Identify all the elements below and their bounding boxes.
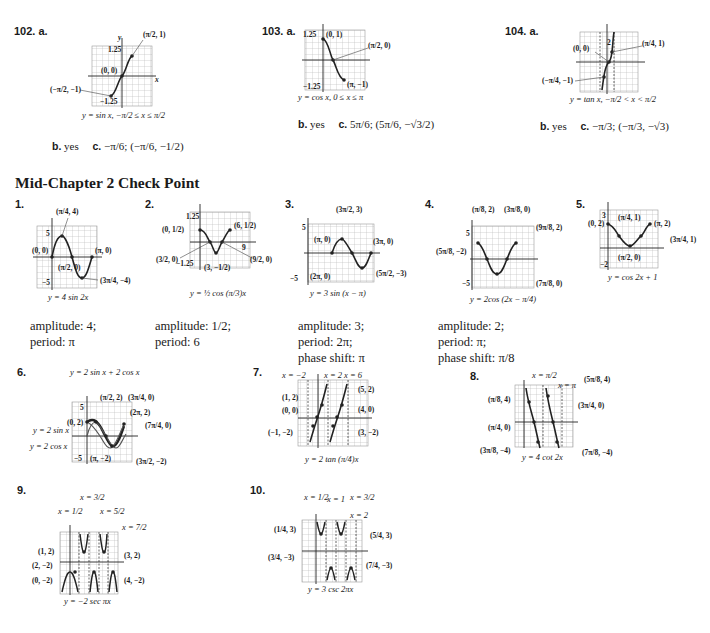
svg-text:(2π, 2): (2π, 2) (130, 408, 151, 417)
svg-text:(0, 2): (0, 2) (588, 219, 605, 228)
svg-text:(1, 2): (1, 2) (38, 547, 55, 556)
svg-text:(π/4, 4): (π/4, 4) (56, 207, 79, 216)
svg-text:(7π/8, −4): (7π/8, −4) (582, 448, 613, 457)
svg-text:(3π/4, 0): (3π/4, 0) (578, 401, 605, 410)
svg-text:(0, 1): (0, 1) (326, 30, 343, 39)
svg-text:2: 2 (607, 38, 611, 47)
svg-text:(0, 2): (0, 2) (67, 418, 84, 427)
svg-text:x = π/2: x = π/2 (531, 370, 557, 380)
svg-text:−5: −5 (74, 454, 82, 463)
svg-text:(π, 0): (π, 0) (314, 235, 331, 244)
svg-text:(π/2, 1): (π/2, 1) (143, 30, 166, 39)
svg-text:x = 1/2: x = 1/2 (57, 506, 83, 516)
svg-text:y = 2 tan (π/4)x: y = 2 tan (π/4)x (304, 454, 359, 464)
svg-text:(5π/8, 4): (5π/8, 4) (584, 375, 611, 384)
svg-text:(4, −2): (4, −2) (124, 576, 145, 585)
svg-text:−1.25: −1.25 (100, 97, 118, 106)
svg-text:(π/2, 0): (π/2, 0) (368, 41, 391, 50)
svg-text:(π, −1): (π, −1) (347, 80, 368, 89)
svg-text:(π, 2): (π, 2) (654, 219, 671, 228)
svg-text:(3π/2, 3): (3π/2, 3) (336, 205, 363, 214)
svg-text:x = 3/2: x = 3/2 (349, 492, 375, 502)
svg-text:(7/4, −3): (7/4, −3) (366, 561, 393, 570)
svg-text:x = 2: x = 2 (323, 370, 343, 380)
svg-text:(π/2, 0): (π/2, 0) (618, 253, 641, 262)
svg-text:y = 3 csc 2πx: y = 3 csc 2πx (307, 584, 354, 594)
svg-text:1.25: 1.25 (303, 30, 316, 39)
svg-text:(3, −2): (3, −2) (358, 428, 379, 437)
problem-102-bc: b. yes c. −π/6; (−π/6, −1/2) (52, 140, 184, 152)
svg-text:x = 5/2: x = 5/2 (99, 506, 125, 516)
svg-text:y = 2 sin x: y = 2 sin x (32, 425, 69, 435)
svg-text:(3/2, 0): (3/2, 0) (156, 255, 179, 264)
svg-text:(0, 0): (0, 0) (573, 44, 590, 53)
svg-text:(−1, −2): (−1, −2) (268, 428, 293, 437)
svg-text:x = −2: x = −2 (281, 370, 306, 380)
svg-text:(3π/4, 0): (3π/4, 0) (128, 393, 155, 402)
svg-text:(2, −2): (2, −2) (32, 561, 53, 570)
graph-cp-6: y = 2 sin x + 2 cos x y = 2 sin x y = 2 … (0, 340, 250, 480)
svg-text:y = ½ cos (π/3)x: y = ½ cos (π/3)x (189, 288, 246, 298)
svg-text:5: 5 (302, 223, 306, 232)
svg-text:(π/2, 0): (π/2, 0) (58, 263, 81, 272)
problem-104-bc: b. yes c. −π/3; (−π/3, −√3) (540, 120, 669, 132)
svg-text:y = tan x, −π/2 < x < π/2: y = tan x, −π/2 < x < π/2 (569, 94, 657, 104)
svg-text:y = −2 sec πx: y = −2 sec πx (63, 596, 111, 606)
svg-text:x = 6: x = 6 (343, 370, 363, 380)
svg-text:−1.25: −1.25 (303, 82, 321, 91)
svg-text:y = 3 sin (x − π): y = 3 sin (x − π) (309, 288, 366, 298)
svg-text:9: 9 (242, 243, 246, 252)
svg-text:−5: −5 (42, 278, 50, 287)
svg-text:(6, 1/2): (6, 1/2) (234, 221, 257, 230)
svg-text:(0, 0): (0, 0) (101, 66, 118, 75)
svg-text:(1, 2): (1, 2) (282, 393, 299, 402)
svg-text:−1.25: −1.25 (176, 259, 194, 268)
svg-text:(0, 1/2): (0, 1/2) (162, 225, 185, 234)
svg-text:5: 5 (46, 229, 50, 238)
svg-text:(5/4, 3): (5/4, 3) (370, 531, 393, 540)
graph-103: 1.25 −1.25 (0, 1) (π/2, 0) (π, −1) y = c… (240, 0, 480, 170)
svg-text:(π/4, 1): (π/4, 1) (618, 213, 641, 222)
svg-text:x = 1: x = 1 (326, 494, 345, 504)
svg-text:x = 1/2: x = 1/2 (303, 492, 329, 502)
graph-cp-8: x = π/2 x = π (5π/8, 4) (π/8, 4) (3π/4, … (470, 340, 710, 490)
svg-text:1.25: 1.25 (108, 45, 121, 54)
svg-text:−2: −2 (600, 260, 608, 269)
svg-text:x = π: x = π (557, 380, 577, 390)
svg-text:(7π/4, 0): (7π/4, 0) (145, 421, 172, 430)
svg-text:(3π/4, 1): (3π/4, 1) (670, 235, 697, 244)
svg-text:y = 4 cot 2x: y = 4 cot 2x (521, 452, 563, 462)
svg-text:(π, 0): (π, 0) (95, 246, 112, 255)
svg-text:y = 2 sin x + 2 cos x: y = 2 sin x + 2 cos x (69, 367, 140, 377)
graph-cp-5: 3 −2 (0, 2) (π/4, 1) (π, 2) (3π/4, 1) (π… (520, 190, 710, 310)
svg-text:y = cos x, 0 ≤ x ≤ π: y = cos x, 0 ≤ x ≤ π (297, 92, 364, 102)
svg-text:(3π/8, −4): (3π/8, −4) (480, 446, 511, 455)
svg-text:(−π/2, −1): (−π/2, −1) (50, 85, 81, 94)
svg-text:(3, 2): (3, 2) (124, 551, 141, 560)
svg-text:−5: −5 (290, 274, 298, 283)
svg-text:x = 2: x = 2 (349, 510, 369, 520)
svg-text:(3, −1/2): (3, −1/2) (204, 263, 231, 272)
svg-text:(3π/2, −2): (3π/2, −2) (136, 457, 167, 466)
graph-cp-9: x = 3/2 x = 1/2 x = 5/2 x = 7/2 (1, 2) (… (0, 480, 230, 633)
svg-text:(π, −2): (π, −2) (90, 454, 111, 463)
graph-cp-10: x = 1/2 x = 1 x = 3/2 x = 2 (1/4, 3) (5/… (230, 480, 470, 633)
svg-text:x = 7/2: x = 7/2 (121, 522, 147, 532)
graph-104: 2 (0, 0) (π/4, 1) (−π/4, −1) y = tan x, … (470, 0, 710, 170)
svg-text:y = cos 2x + 1: y = cos 2x + 1 (607, 272, 657, 282)
svg-text:(2π, 0): (2π, 0) (310, 272, 331, 281)
svg-text:(4, 0): (4, 0) (358, 405, 375, 414)
svg-text:(1/4, 3): (1/4, 3) (274, 525, 297, 534)
problem-103-bc: b. yes c. 5π/6; (5π/6, −√3/2) (298, 118, 434, 130)
svg-text:y: y (117, 33, 122, 42)
svg-text:(π/4, 0): (π/4, 0) (488, 423, 511, 432)
svg-text:(π/4, 1): (π/4, 1) (642, 39, 665, 48)
svg-text:(3π/4, −4): (3π/4, −4) (100, 276, 131, 285)
svg-text:(π/8, 4): (π/8, 4) (488, 395, 511, 404)
svg-text:(−π/4, −1): (−π/4, −1) (542, 76, 573, 85)
svg-text:(5, 2): (5, 2) (358, 385, 375, 394)
svg-text:x = 3/2: x = 3/2 (79, 492, 105, 502)
svg-text:5: 5 (466, 229, 470, 238)
svg-text:y = 4 sin 2x: y = 4 sin 2x (47, 292, 88, 302)
svg-text:(π/8, 2): (π/8, 2) (472, 205, 495, 214)
